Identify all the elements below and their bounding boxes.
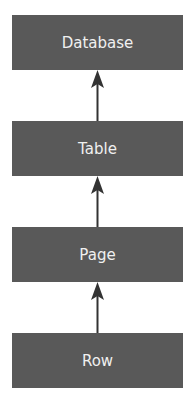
arrow-up-icon (91, 282, 104, 333)
edges (0, 0, 191, 403)
arrow-up-icon (91, 70, 104, 121)
arrow-up-icon (91, 176, 104, 227)
